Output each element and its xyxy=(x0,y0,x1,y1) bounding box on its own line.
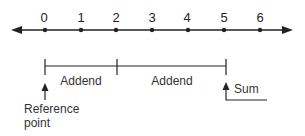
reference-label-line2: point xyxy=(24,116,51,130)
sum-arrow-icon xyxy=(223,82,230,90)
tick-label-1: 1 xyxy=(77,10,84,25)
point-6 xyxy=(258,28,262,32)
tick-label-0: 0 xyxy=(40,10,47,25)
tick-label-5: 5 xyxy=(220,10,227,25)
left-arrowhead-icon xyxy=(11,26,22,34)
point-3 xyxy=(150,28,154,32)
reference-arrow-icon xyxy=(42,83,49,91)
point-1 xyxy=(79,28,83,32)
point-4 xyxy=(186,28,190,32)
sum-label: Sum xyxy=(234,82,259,96)
reference-label-line1: Reference xyxy=(24,102,80,116)
tick-label-6: 6 xyxy=(256,10,263,25)
addend-label-1: Addend xyxy=(60,74,101,88)
number-line-diagram: 0 1 2 3 4 5 6 Addend Addend Reference po… xyxy=(0,0,305,136)
tick-label-2: 2 xyxy=(112,10,119,25)
point-0 xyxy=(43,28,47,32)
addend-label-2: Addend xyxy=(151,74,192,88)
tick-label-4: 4 xyxy=(183,10,190,25)
point-2 xyxy=(114,28,118,32)
tick-label-3: 3 xyxy=(148,10,155,25)
point-5 xyxy=(222,28,226,32)
right-arrowhead-icon xyxy=(282,26,293,34)
